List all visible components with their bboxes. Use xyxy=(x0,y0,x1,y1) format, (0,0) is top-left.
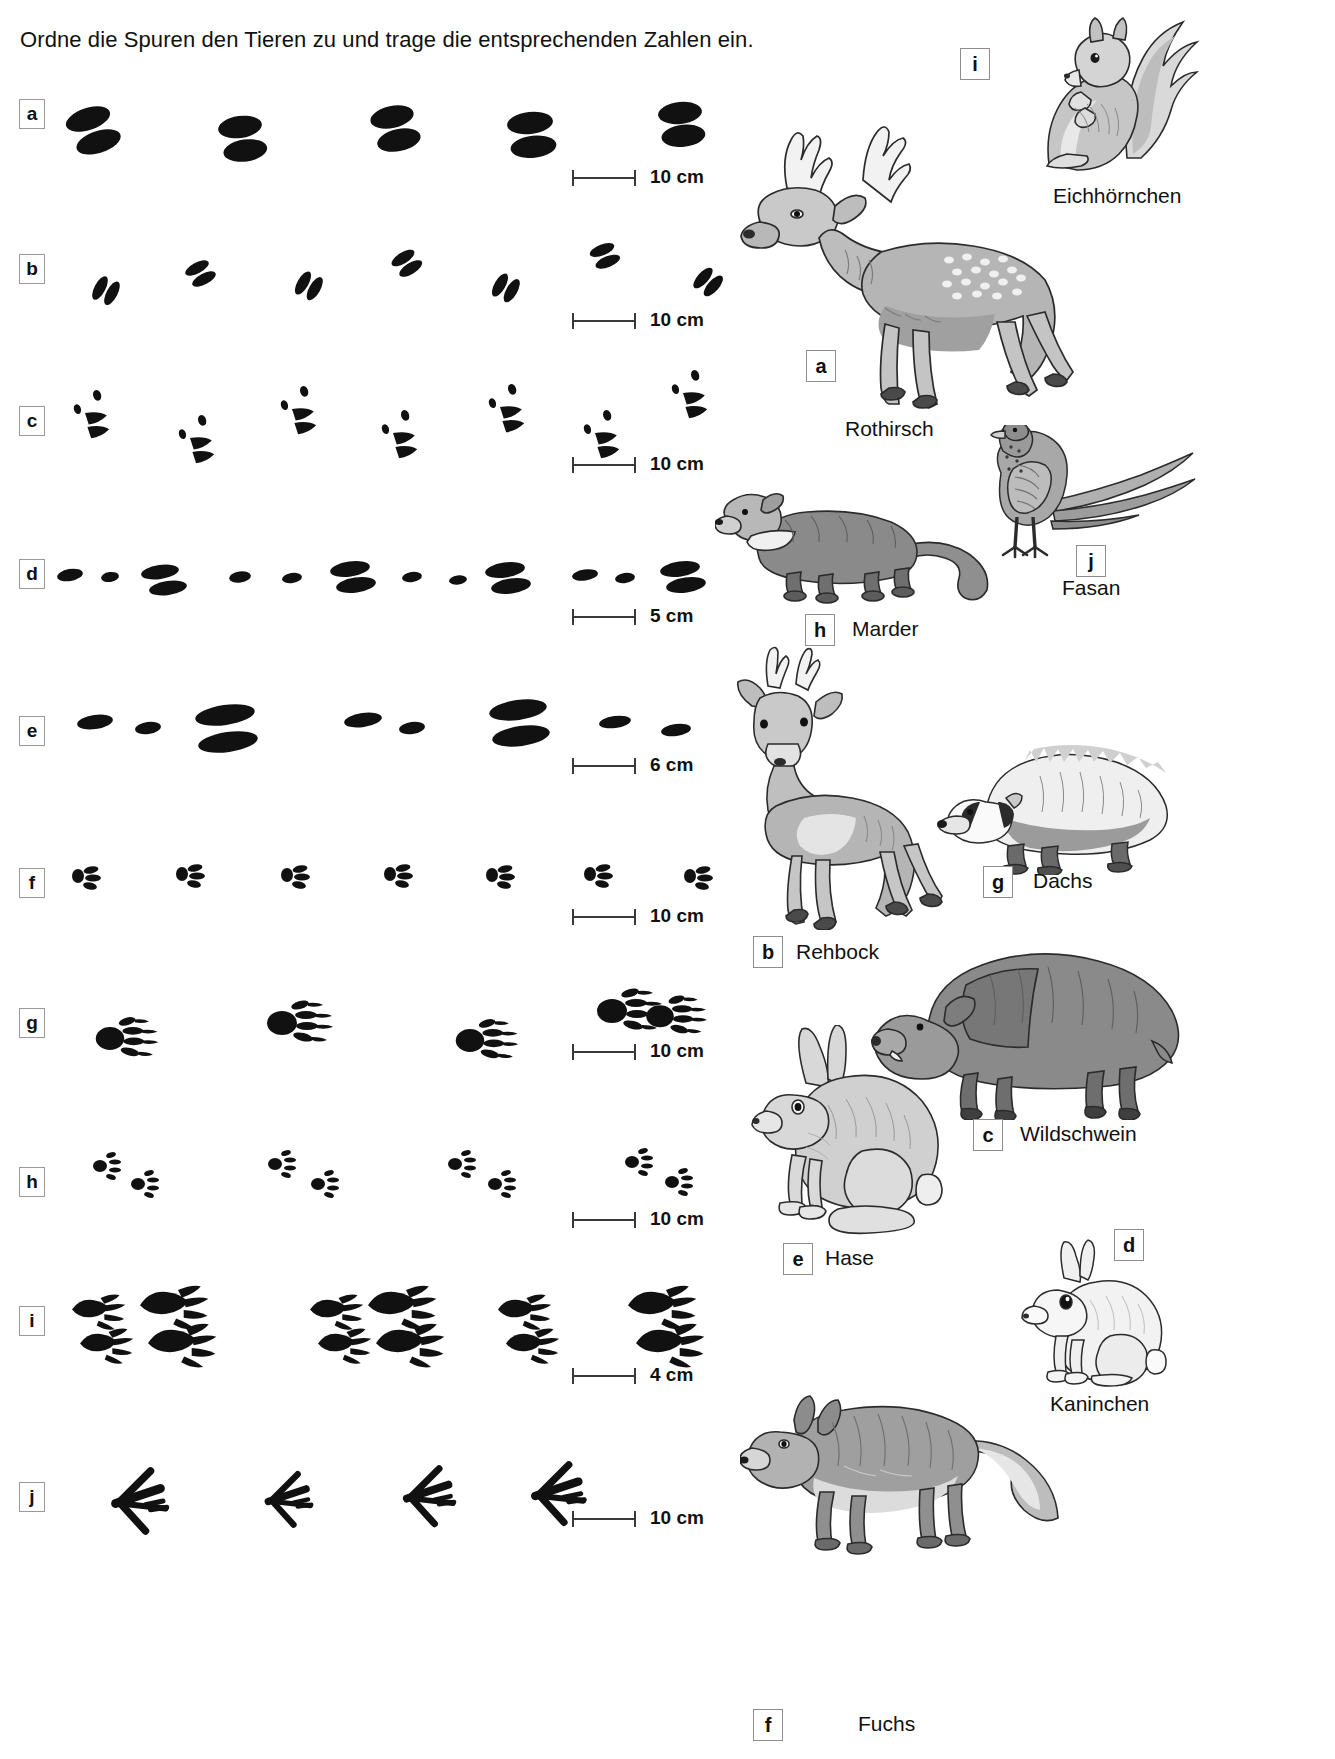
track-row-f xyxy=(0,862,740,910)
track-row-g xyxy=(0,985,740,1065)
caption-rothirsch: Rothirsch xyxy=(845,417,934,441)
caption-rehbock: Rehbock xyxy=(796,940,879,964)
track-row-e xyxy=(0,700,740,765)
track-row-b xyxy=(0,240,740,320)
page-title: Ordne die Spuren den Tieren zu und trage… xyxy=(20,27,754,53)
animal-dachs xyxy=(920,740,1190,875)
animal-fuchs xyxy=(740,1370,1070,1560)
caption-hase: Hase xyxy=(825,1246,874,1270)
answer-box-wildschwein[interactable]: c xyxy=(973,1119,1003,1151)
animal-hase xyxy=(750,1025,960,1240)
track-row-h xyxy=(0,1150,740,1210)
track-row-c xyxy=(0,385,740,480)
track-row-d xyxy=(0,555,740,610)
answer-box-dachs[interactable]: g xyxy=(983,866,1013,898)
answer-box-fasan[interactable]: j xyxy=(1076,545,1106,577)
caption-dachs: Dachs xyxy=(1033,869,1093,893)
answer-box-rothirsch[interactable]: a xyxy=(806,350,836,382)
answer-box-rehbock[interactable]: b xyxy=(753,936,783,968)
caption-fuchs: Fuchs xyxy=(858,1712,915,1736)
track-row-j xyxy=(0,1462,740,1542)
scale-label-h: 10 cm xyxy=(650,1208,704,1230)
caption-wildschwein: Wildschwein xyxy=(1020,1122,1137,1146)
answer-box-eichhoernchen[interactable]: i xyxy=(960,48,990,80)
track-row-i xyxy=(0,1290,740,1380)
track-row-a xyxy=(0,105,740,175)
animal-rothirsch xyxy=(735,110,1075,410)
caption-marder: Marder xyxy=(852,617,919,641)
caption-fasan: Fasan xyxy=(1062,576,1120,600)
answer-box-hase[interactable]: e xyxy=(783,1243,813,1275)
answer-box-kaninchen[interactable]: d xyxy=(1114,1229,1144,1261)
answer-box-fuchs[interactable]: f xyxy=(753,1709,783,1741)
